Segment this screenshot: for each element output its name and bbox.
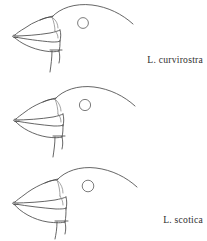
species-label-curvirostra: L. curvirostra bbox=[53, 54, 203, 65]
bird-head-profile-icon bbox=[0, 0, 140, 80]
specimen-panel-curvirostra: L. curvirostra bbox=[0, 0, 207, 80]
specimen-panel-scotica: L. scotica bbox=[0, 80, 207, 160]
bird-head-profile-icon bbox=[0, 80, 140, 160]
specimen-panel-pytyopsittacus: L. pytyopsittacus bbox=[0, 160, 207, 240]
bird-head-profile-icon bbox=[0, 160, 140, 240]
figure-plate: L. curvirostra bbox=[0, 0, 207, 241]
